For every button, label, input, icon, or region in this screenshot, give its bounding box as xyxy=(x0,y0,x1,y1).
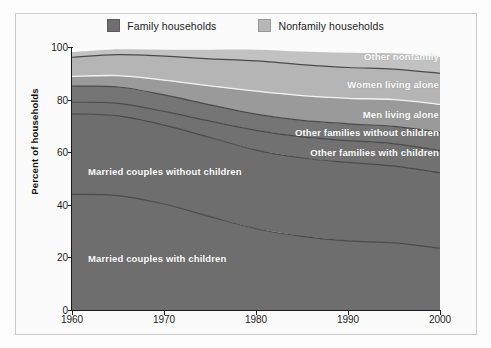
y-tick-label-60: 60 xyxy=(46,147,68,158)
legend-label-nonfamily-households: Nonfamily households xyxy=(278,20,383,32)
band-label-other-families-without-children: Other families without children xyxy=(295,127,439,138)
legend-swatch-nonfamily-households xyxy=(258,19,271,32)
y-axis-title: Percent of households xyxy=(29,82,40,202)
legend-item-family-households: Family households xyxy=(107,19,216,32)
band-label-married-couples-with-children: Married couples with children xyxy=(88,253,226,264)
chart-legend: Family households Nonfamily households xyxy=(0,19,491,32)
x-tick-label-2000: 2000 xyxy=(429,314,451,325)
x-tick-label-1970: 1970 xyxy=(153,314,175,325)
x-tick-label-1960: 1960 xyxy=(61,314,83,325)
band-label-married-couples-without-children: Married couples without children xyxy=(88,166,242,177)
y-tick-label-20: 20 xyxy=(46,252,68,263)
legend-swatch-family-households xyxy=(107,19,120,32)
band-label-men-living-alone: Men living alone xyxy=(363,109,439,120)
y-tick-label-80: 80 xyxy=(46,94,68,105)
chart-page: Family households Nonfamily households P… xyxy=(0,0,491,348)
y-tick-label-100: 100 xyxy=(46,42,68,53)
legend-label-family-households: Family households xyxy=(127,20,216,32)
band-label-other-nonfamily: Other nonfamily xyxy=(364,51,439,62)
y-tick-label-40: 40 xyxy=(46,199,68,210)
x-tick-label-1990: 1990 xyxy=(337,314,359,325)
legend-item-nonfamily-households: Nonfamily households xyxy=(258,19,383,32)
band-label-women-living-alone: Women living alone xyxy=(347,79,439,90)
x-tick-label-1980: 1980 xyxy=(245,314,267,325)
band-label-other-families-with-children: Other families with children xyxy=(310,147,439,158)
